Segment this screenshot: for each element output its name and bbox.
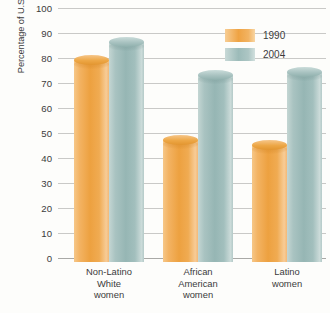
y-tick-label-90: 90: [26, 28, 52, 39]
y-tick-label-100: 100: [26, 3, 52, 14]
y-tick-label-70: 70: [26, 78, 52, 89]
y-tick-label-30: 30: [26, 178, 52, 189]
bar-body: [163, 140, 198, 263]
bar-group-1: [74, 12, 144, 262]
y-tick-label-0: 0: [26, 253, 52, 264]
bar-top-cap: [198, 70, 233, 80]
bar-body: [198, 75, 233, 263]
legend-item-2004[interactable]: 2004: [225, 45, 317, 64]
bar-2004-3[interactable]: [287, 72, 322, 262]
bar-body: [74, 60, 109, 263]
category-label-line: Non-Latino: [64, 266, 154, 278]
bar-1990-1[interactable]: [74, 60, 109, 263]
bar-1990-2[interactable]: [163, 140, 198, 263]
category-label-line: White: [64, 278, 154, 290]
category-label-line: women: [242, 278, 330, 290]
bar-body: [252, 145, 287, 263]
category-label-line: Latino: [242, 266, 330, 278]
bar-2004-1[interactable]: [109, 42, 144, 262]
category-label-line: American: [153, 278, 243, 290]
bar-top-cap: [287, 67, 322, 77]
legend-item-1990[interactable]: 1990: [225, 26, 317, 45]
bar-body: [109, 42, 144, 262]
category-label-line: African: [153, 266, 243, 278]
category-label-2: AfricanAmericanwomen: [153, 266, 243, 301]
y-tick-label-80: 80: [26, 53, 52, 64]
prenatal-care-bar-chart: Percentage of U.S. women using timely pr…: [0, 0, 330, 313]
y-tick-label-10: 10: [26, 228, 52, 239]
category-label-line: women: [153, 289, 243, 301]
bar-top-cap: [252, 140, 287, 150]
bar-top-cap: [74, 55, 109, 65]
legend-label-1990: 1990: [263, 30, 285, 41]
y-tick-label-50: 50: [26, 128, 52, 139]
bar-top-cap: [109, 37, 144, 47]
y-tick-label-40: 40: [26, 153, 52, 164]
bar-group-2: [163, 12, 233, 262]
legend-swatch-1990: [225, 29, 255, 42]
bar-2004-2[interactable]: [198, 75, 233, 263]
bar-1990-3[interactable]: [252, 145, 287, 263]
bar-body: [287, 72, 322, 262]
y-tick-label-20: 20: [26, 203, 52, 214]
category-label-line: women: [64, 289, 154, 301]
legend-label-2004: 2004: [263, 49, 285, 60]
legend: 19902004: [225, 26, 317, 64]
legend-swatch-2004: [225, 48, 255, 61]
category-label-1: Non-LatinoWhitewomen: [64, 266, 154, 301]
gridline-100: [58, 8, 326, 9]
y-tick-label-60: 60: [26, 103, 52, 114]
category-label-3: Latinowomen: [242, 266, 330, 289]
bar-top-cap: [163, 135, 198, 145]
